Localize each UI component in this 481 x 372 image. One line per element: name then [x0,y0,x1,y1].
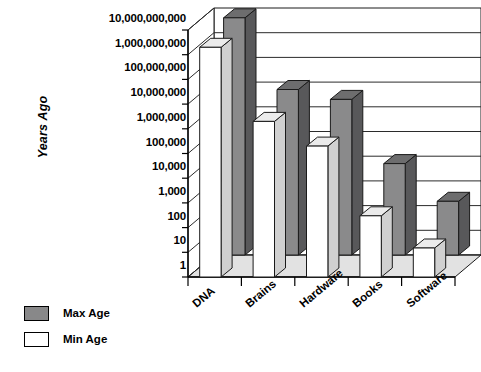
bar-side-face [328,137,339,277]
bar-side-face [221,38,232,277]
bar-front-face [307,146,328,277]
bar-side-face [405,155,416,255]
bar-side-face [381,207,392,277]
chart-3d-column: Years Ago 10,000,000,0001,000,000,000100… [0,0,481,372]
legend-swatch-min-icon [24,332,49,347]
bar-side-face [459,192,470,255]
bar-front-face [200,47,221,277]
bar-front-face [413,248,434,277]
legend-label: Min Age [63,333,107,345]
bar-front-face [253,121,274,277]
chart-legend: Max AgeMin Age [24,300,110,352]
legend-item[interactable]: Min Age [24,326,110,352]
bar-front-face [360,216,381,277]
legend-label: Max Age [63,307,110,319]
legend-swatch-max-icon [24,306,49,321]
legend-item[interactable]: Max Age [24,300,110,326]
bar-side-face [275,112,286,277]
